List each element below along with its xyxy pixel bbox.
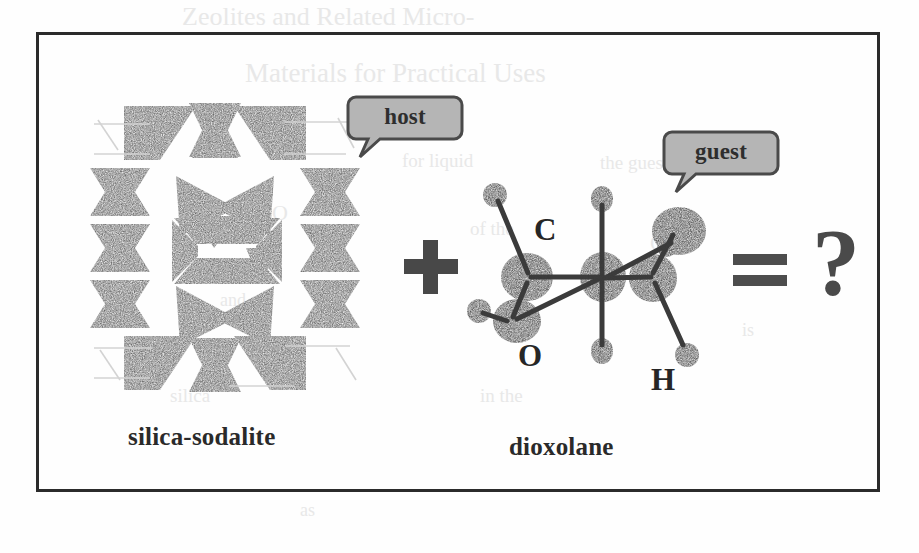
atom-hydrogen-ring bbox=[657, 237, 677, 257]
atom-carbon-center bbox=[580, 252, 626, 302]
atom-label-hydrogen: H bbox=[651, 362, 675, 398]
atom-hydrogen-axial-top bbox=[591, 186, 613, 212]
caption-dioxolane: dioxolane bbox=[509, 433, 614, 461]
atom-hydrogen-upper-left bbox=[483, 183, 507, 207]
sodalite-polyhedra-svg bbox=[88, 98, 366, 398]
callout-host-label: host bbox=[346, 102, 464, 132]
atom-hydrogen-lower-right bbox=[675, 343, 699, 367]
scan-ghost-text: as bbox=[300, 500, 315, 521]
atom-label-oxygen: O bbox=[518, 338, 542, 374]
figure-page: Zeolites and Related Micro- Materials fo… bbox=[0, 0, 919, 553]
question-mark: ? bbox=[812, 215, 860, 311]
atom-hydrogen-axial-bottom bbox=[591, 338, 613, 364]
atom-label-carbon: C bbox=[534, 212, 556, 248]
callout-guest: guest bbox=[662, 130, 780, 202]
silica-sodalite-structure bbox=[88, 98, 366, 398]
atom-carbon-left bbox=[501, 253, 553, 301]
equals-operator bbox=[733, 254, 787, 288]
atom-oxygen-bottom-left bbox=[493, 299, 541, 343]
callout-guest-label: guest bbox=[662, 137, 780, 167]
plus-vertical-bar bbox=[423, 240, 438, 294]
equals-bottom-bar bbox=[733, 275, 787, 286]
atom-carbon-right bbox=[629, 254, 677, 302]
callout-host: host bbox=[346, 95, 464, 167]
scan-ghost-text: Zeolites and Related Micro- bbox=[182, 2, 474, 32]
caption-silica-sodalite: silica-sodalite bbox=[128, 423, 275, 451]
plus-operator bbox=[404, 240, 458, 294]
atom-hydrogen-left bbox=[467, 299, 491, 323]
equals-top-bar bbox=[733, 254, 787, 265]
